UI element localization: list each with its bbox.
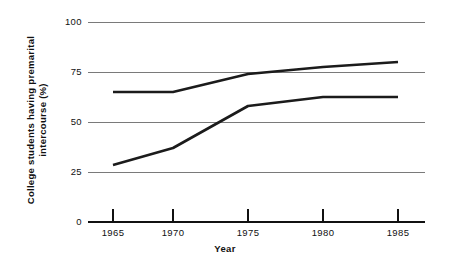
chart-figure: 100 75 50 25 0 1965 1970 1975 1980 1985 … <box>0 0 451 268</box>
y-tick-label-50: 50 <box>71 116 82 127</box>
line-chart: 100 75 50 25 0 1965 1970 1975 1980 1985 … <box>0 0 451 268</box>
x-tick-label-1980: 1980 <box>312 227 335 238</box>
y-tick-label-25: 25 <box>71 166 82 177</box>
x-tick-label-1970: 1970 <box>162 227 185 238</box>
x-axis-title: Year <box>214 243 235 254</box>
y-tick-label-100: 100 <box>65 16 82 27</box>
x-tick-label-1965: 1965 <box>102 227 125 238</box>
y-axis-title-line2: intercourse (%) <box>37 83 48 157</box>
chart-background <box>0 0 451 268</box>
y-axis-title-line1: College students having premarital <box>25 36 36 205</box>
y-tick-label-75: 75 <box>71 66 82 77</box>
y-tick-label-0: 0 <box>76 216 82 227</box>
x-tick-label-1975: 1975 <box>237 227 260 238</box>
x-tick-label-1985: 1985 <box>387 227 410 238</box>
